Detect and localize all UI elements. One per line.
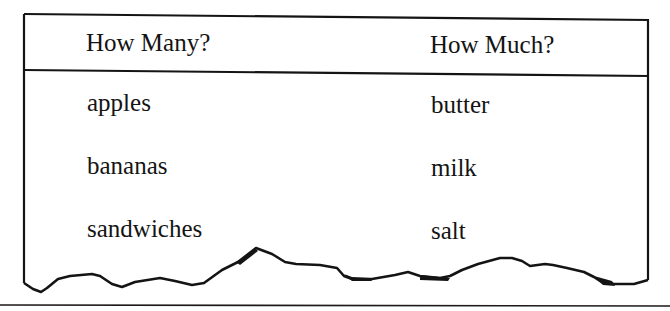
torn-edge — [24, 248, 648, 292]
cell-salt: salt — [431, 218, 466, 243]
ink-patch — [594, 276, 615, 286]
header-divider — [24, 70, 649, 76]
column-header-how-many: How Many? — [86, 30, 210, 55]
cell-apples: apples — [87, 90, 151, 115]
torn-table-figure: How Many? How Much? apples butter banana… — [0, 0, 670, 311]
top-border — [24, 14, 649, 20]
cell-bananas: bananas — [87, 153, 168, 178]
ink-patch — [236, 249, 258, 265]
column-header-how-much: How Much? — [430, 32, 554, 57]
cell-milk: milk — [431, 155, 477, 180]
cell-butter: butter — [431, 92, 489, 117]
cell-sandwiches: sandwiches — [87, 216, 202, 241]
ink-patch — [344, 274, 372, 281]
page-rule — [0, 305, 670, 306]
